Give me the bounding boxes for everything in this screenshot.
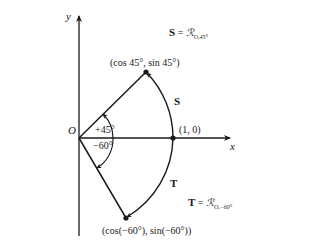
arc-t-label: T <box>170 177 177 189</box>
point-45 <box>143 69 148 74</box>
arc-s <box>147 73 173 138</box>
y-axis-label: y <box>66 10 71 22</box>
point-45-label: (cos 45°, sin 45°) <box>110 57 180 68</box>
t-equation: T = ℛO,−60° <box>188 196 232 210</box>
point-1-0-label: (1, 0) <box>179 124 201 135</box>
arc-t <box>127 138 173 217</box>
point-1-0 <box>170 135 175 140</box>
point-neg60 <box>123 215 128 220</box>
origin-label: O <box>68 124 76 136</box>
x-axis-label: x <box>230 140 235 152</box>
angle-neg-label: −60° <box>93 140 113 151</box>
s-equation: S = ℛO,45° <box>169 26 208 40</box>
arc-s-label: S <box>174 95 180 107</box>
point-neg60-label: (cos(−60°), sin(−60°)) <box>102 225 191 236</box>
angle-pos-label: +45° <box>95 124 115 135</box>
